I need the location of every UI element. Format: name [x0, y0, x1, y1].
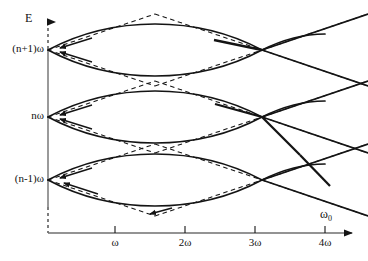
solid-n1-right-down: [262, 50, 368, 86]
emph-seg-4: [214, 40, 262, 50]
x-tick-label-4omega: 4ω: [311, 237, 339, 248]
solid-n-right-up: [262, 81, 368, 117]
emph-seg-3: [300, 155, 330, 186]
dashed-n1-up: [48, 14, 155, 50]
y-axis-title: E: [25, 12, 32, 24]
x-tick-label-3omega: 3ω: [241, 237, 269, 248]
arrowhead-n1-left2: [60, 52, 92, 62]
solid-n-right-down: [262, 117, 368, 153]
dashed-nm1-down-from-apex: [155, 144, 262, 180]
y-tick-label-n-plus-1: (n+1)ω: [0, 43, 44, 54]
solid-n1-right-up: [262, 14, 368, 50]
band-diagram-svg: [0, 0, 368, 261]
dashed-n1-down-from-apex: [155, 14, 262, 50]
solid-n-lower-lobe: [48, 117, 262, 143]
solid-n1-upper-lobe: [48, 24, 262, 50]
solid-nm1-right-up: [262, 144, 368, 180]
arrowhead-nm1-left: [60, 168, 92, 178]
arrowhead-nm1-bottom: [150, 208, 172, 214]
arrowhead-nm1-left2: [64, 183, 98, 194]
solid-nm1-upper-lobe: [48, 154, 262, 180]
dashed-nm1-fall: [48, 180, 155, 216]
dashed-n1-fall: [48, 50, 155, 86]
solid-nm1-right-down: [262, 180, 368, 216]
dashed-n-rise2: [155, 117, 262, 153]
arrowhead-n1-left: [60, 38, 92, 48]
x-axis-title-base: ω: [320, 207, 328, 221]
x-axis-title-subscript: 0: [328, 214, 332, 223]
solid-nm1-lower-lobe: [48, 180, 262, 206]
solid-n-upper-lobe: [48, 91, 262, 117]
dashed-n1-rise2: [155, 50, 262, 86]
y-tick-label-n: nω: [0, 110, 44, 121]
x-tick-label-2omega: 2ω: [171, 237, 199, 248]
dashed-nm1-rise2: [155, 180, 262, 216]
curve-arrowheads: [60, 38, 172, 214]
arrowhead-n-left: [60, 105, 92, 115]
dashed-n-up: [48, 81, 155, 117]
solid-dressed-curves: [48, 14, 368, 216]
y-tick-label-n-minus-1: (n-1)ω: [0, 173, 44, 184]
dashed-unperturbed-lines: [48, 14, 368, 216]
solid-n1-lower-lobe: [48, 50, 262, 76]
x-axis-title: ω0: [320, 208, 332, 223]
x-tick-label-omega: ω: [103, 237, 127, 248]
arrowhead-n-left2: [60, 119, 92, 129]
dashed-nm1-up: [48, 144, 155, 180]
figure-root: E (n+1)ω nω (n-1)ω ω 2ω 3ω 4ω ω0: [0, 0, 368, 261]
dashed-n-fall: [48, 117, 155, 153]
